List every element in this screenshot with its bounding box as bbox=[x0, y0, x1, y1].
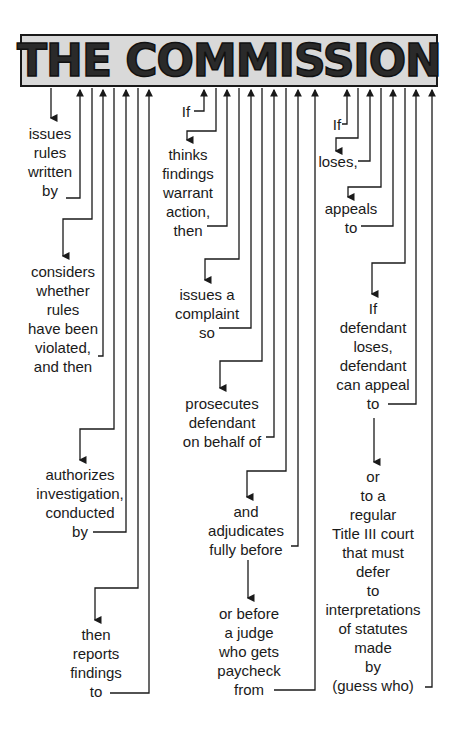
commission-flow-diagram: THE COMMISSION bbox=[0, 0, 460, 732]
arrow-up-icon bbox=[291, 90, 298, 546]
step-defendant-loses: If defendant loses, defendant can appeal… bbox=[334, 299, 412, 413]
arrow-up-icon bbox=[274, 90, 315, 690]
step-considers: considers whether rules have been violat… bbox=[22, 262, 104, 376]
arrow-up-icon bbox=[266, 90, 274, 437]
step-authorizes: authorizes investigation, conducted by bbox=[28, 465, 132, 541]
step-prosecutes: prosecutes defendant on behalf of bbox=[176, 394, 268, 451]
step-appeals: appeals to bbox=[318, 199, 384, 237]
step-thinks: thinks findings warrant action, then bbox=[155, 145, 221, 240]
arrow-down-icon bbox=[372, 88, 405, 294]
arrow-down-icon bbox=[348, 88, 381, 197]
arrow-down-icon bbox=[220, 88, 262, 388]
arrow-up-icon bbox=[358, 90, 370, 161]
step-adjudicates: and adjudicates fully before bbox=[198, 502, 294, 559]
step-if-1: If bbox=[178, 102, 194, 121]
step-complaint: issues a complaint so bbox=[167, 285, 247, 342]
step-issues-rules: issues rules written by bbox=[20, 124, 80, 200]
step-loses: loses, bbox=[318, 152, 358, 171]
arrow-up-icon bbox=[110, 90, 149, 693]
step-reports: then reports findings to bbox=[65, 625, 127, 701]
step-title-iii-court: or to a regular Title III court that mus… bbox=[318, 467, 428, 695]
step-judge: or before a judge who gets paycheck from bbox=[210, 604, 288, 699]
step-if-2: If bbox=[330, 115, 344, 134]
arrow-up-icon bbox=[194, 90, 204, 111]
